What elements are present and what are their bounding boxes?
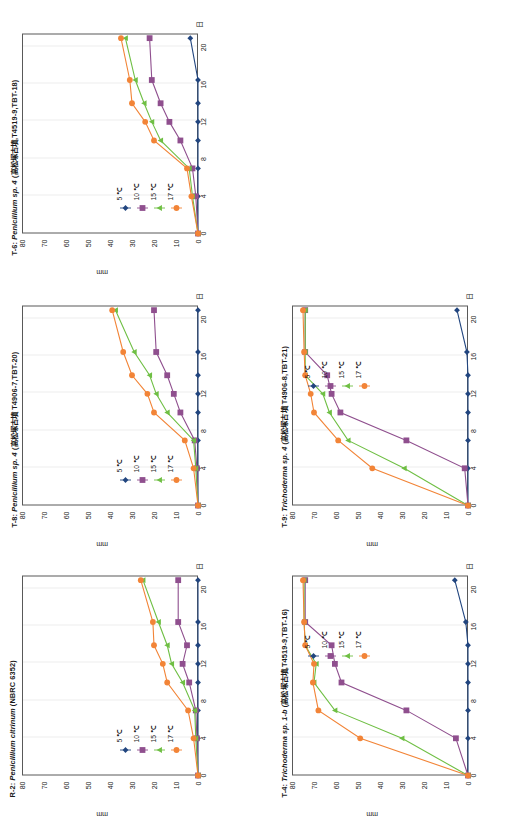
- chart-panel-r-2: R-2: Penicillium citrinum (NBRC 6352)010…: [8, 559, 253, 811]
- chart-panel-t-8: T-8: Penicillium sp. 4 (高松塚古墳 T4906-7,TB…: [8, 289, 253, 541]
- legend-marker-square-icon: [325, 650, 336, 661]
- legend-label: 10 ℃: [321, 361, 329, 378]
- legend-marker-diamond-icon: [120, 474, 131, 485]
- series-line: [305, 310, 468, 505]
- legend-marker-square-icon: [325, 380, 336, 391]
- series-line: [305, 580, 468, 775]
- chart-panel-t-4: T-4: Trichoderma sp. 1-b (高松塚古墳,T4519-9,…: [278, 559, 523, 811]
- legend-label: 5 ℃: [116, 458, 124, 472]
- legend-marker-diamond-icon: [308, 650, 319, 661]
- multi-panel-figure: R-2: Penicillium citrinum (NBRC 6352)010…: [0, 0, 532, 817]
- legend-label: 10 ℃: [133, 183, 141, 200]
- legend-label: 17 ℃: [167, 725, 175, 742]
- legend-marker-square-icon: [137, 202, 148, 213]
- legend-label: 5 ℃: [116, 728, 124, 742]
- legend-marker-circle-icon: [359, 380, 370, 391]
- legend-label: 5 ℃: [304, 634, 312, 648]
- legend-marker-circle-icon: [171, 202, 182, 213]
- series-layer: [8, 17, 253, 269]
- legend-label: 5 ℃: [304, 364, 312, 378]
- legend-marker-triangle-icon: [342, 380, 353, 391]
- series-line: [455, 580, 468, 775]
- legend-marker-circle-icon: [359, 650, 370, 661]
- legend-label: 15 ℃: [338, 361, 346, 378]
- legend-marker-diamond-icon: [308, 380, 319, 391]
- legend-label: 10 ℃: [133, 725, 141, 742]
- chart-panel-t-9: T-9: Trichoderma sp. 4 (高松塚古墳 T4906-8,TB…: [278, 289, 523, 541]
- series-layer: [8, 559, 253, 811]
- legend-marker-square-icon: [137, 474, 148, 485]
- legend-label: 17 ℃: [167, 183, 175, 200]
- legend-label: 5 ℃: [116, 186, 124, 200]
- legend-marker-triangle-icon: [154, 474, 165, 485]
- legend-marker-circle-icon: [171, 474, 182, 485]
- legend-marker-diamond-icon: [120, 744, 131, 755]
- legend-label: 15 ℃: [150, 725, 158, 742]
- series-line: [305, 310, 468, 505]
- legend-marker-square-icon: [137, 744, 148, 755]
- legend-label: 10 ℃: [133, 455, 141, 472]
- legend-label: 10 ℃: [321, 631, 329, 648]
- legend-marker-circle-icon: [171, 744, 182, 755]
- legend-marker-triangle-icon: [154, 744, 165, 755]
- series-layer: [278, 559, 523, 811]
- chart-panel-t-6: T-6: Penicillium sp. 4 (高松塚古墳,T4519-9,TB…: [8, 17, 253, 269]
- legend-label: 17 ℃: [355, 631, 363, 648]
- legend-label: 15 ℃: [150, 455, 158, 472]
- legend-label: 15 ℃: [338, 631, 346, 648]
- series-line: [303, 580, 468, 775]
- series-line: [457, 310, 468, 505]
- figure-sheet: R-2: Penicillium citrinum (NBRC 6352)010…: [0, 0, 532, 817]
- series-layer: [8, 289, 253, 541]
- series-layer: [278, 289, 523, 541]
- series-line: [141, 580, 198, 775]
- series-line: [304, 580, 468, 775]
- legend-marker-triangle-icon: [154, 202, 165, 213]
- legend-marker-triangle-icon: [342, 650, 353, 661]
- legend-label: 15 ℃: [150, 183, 158, 200]
- legend-label: 17 ℃: [167, 455, 175, 472]
- legend-marker-diamond-icon: [120, 202, 131, 213]
- legend-label: 17 ℃: [355, 361, 363, 378]
